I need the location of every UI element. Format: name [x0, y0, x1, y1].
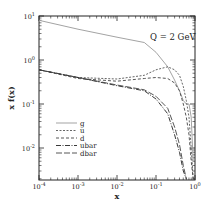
- curves: [39, 20, 193, 179]
- legend: gudubardbar: [56, 120, 97, 158]
- curve-d: [39, 70, 193, 179]
- annotation-label: Q = 2 GeV: [150, 32, 196, 42]
- x-tick-label: 10-4: [32, 181, 45, 191]
- y-tick-label: 100: [24, 55, 35, 65]
- x-tick-label: 10-2: [110, 181, 123, 191]
- x-tick-label: 10-1: [149, 181, 162, 191]
- x-axis-label: x: [115, 191, 120, 201]
- y-tick-label: 101: [24, 11, 35, 21]
- x-tick-label: 100: [189, 181, 200, 191]
- y-tick-label: 10-1: [22, 99, 35, 109]
- plot-svg: 10-410-310-210-110010110010-110-2 guduba…: [0, 0, 209, 210]
- curve-ubar: [39, 70, 186, 179]
- y-tick-label: 10-2: [22, 143, 35, 153]
- legend-label-dbar: dbar: [80, 150, 97, 158]
- curve-dbar: [39, 70, 186, 179]
- y-axis-label: x f(x): [6, 86, 16, 110]
- pdf-chart: 10-410-310-210-110010110010-110-2 guduba…: [0, 0, 209, 210]
- x-tick-label: 10-3: [71, 181, 84, 191]
